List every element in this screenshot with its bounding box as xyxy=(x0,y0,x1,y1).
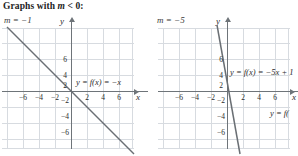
y-axis xyxy=(71,21,72,149)
figure-root: Graphs with m < 0: m = −1 xyxy=(0,0,298,156)
gridline-v xyxy=(103,28,104,149)
y-tick-label: 2 xyxy=(55,81,67,90)
gridline-h xyxy=(158,139,290,140)
equation-label-2-cutoff: y = f( xyxy=(270,108,289,118)
x-tick-label: −6 xyxy=(175,93,183,102)
gridline-h xyxy=(2,107,134,108)
gridline-v xyxy=(275,28,276,149)
x-tick-label: 2 xyxy=(85,93,89,102)
gridline-v xyxy=(39,28,40,149)
gridline-v xyxy=(288,28,289,149)
y-tick-label: −2 xyxy=(211,96,225,105)
y-axis-arrow-icon xyxy=(225,17,231,22)
x-tick-label: −4 xyxy=(191,93,199,102)
gridline-v xyxy=(23,28,24,149)
gridline-h xyxy=(2,43,134,44)
gridline-h xyxy=(158,28,290,29)
gridline-h xyxy=(2,28,134,29)
y-tick-label: 2 xyxy=(211,81,223,90)
y-tick-label: 4 xyxy=(211,71,223,80)
gridline-h xyxy=(2,139,134,140)
y-tick-label: −6 xyxy=(211,128,225,137)
gridline-v xyxy=(195,28,196,149)
slope-label-2: m = −5 xyxy=(157,15,185,25)
y-tick-label: −6 xyxy=(55,128,69,137)
gridline-v xyxy=(163,28,164,149)
gridline-v xyxy=(259,28,260,149)
y-tick-label: −4 xyxy=(55,112,69,121)
gridline-v xyxy=(243,28,244,149)
gridline-v xyxy=(7,28,8,149)
equation-label-2: y = f(x) = −5x + 1 xyxy=(230,67,294,77)
x-tick-label: 4 xyxy=(101,93,105,102)
slope-label-1: m = −1 xyxy=(4,15,32,25)
y-axis-label-1: y xyxy=(60,16,64,26)
x-tick-label: 2 xyxy=(241,93,245,102)
y-tick-label: 6 xyxy=(55,55,67,64)
gridline-h xyxy=(2,75,134,76)
y-tick-label: 6 xyxy=(211,55,223,64)
graph-panel-2: m = −5 xyxy=(150,0,298,156)
y-axis-label-2: y xyxy=(216,16,220,26)
gridline-h xyxy=(158,43,290,44)
y-tick-label: 4 xyxy=(55,71,67,80)
gridline-h xyxy=(2,59,134,60)
gridline-h xyxy=(2,148,134,149)
x-tick-label: −6 xyxy=(19,93,27,102)
x-tick-label: −4 xyxy=(35,93,43,102)
x-axis-label-2: x xyxy=(292,92,296,102)
x-tick-label: 6 xyxy=(273,93,277,102)
x-tick-label: 6 xyxy=(117,93,121,102)
graph-panel-1: m = −1 xyxy=(0,0,150,156)
gridline-v xyxy=(87,28,88,149)
plot-area-1: x y −6 −4 −2 2 4 6 6 4 2 −2 −4 −6 y = f(… xyxy=(2,28,134,149)
gridline-v xyxy=(119,28,120,149)
y-tick-label: −2 xyxy=(55,96,69,105)
x-axis-label-1: x xyxy=(136,92,140,102)
gridline-v xyxy=(179,28,180,149)
y-axis-arrow-icon xyxy=(69,17,75,22)
gridline-h xyxy=(158,59,290,60)
y-tick-label: −4 xyxy=(211,112,225,121)
x-tick-label: 4 xyxy=(257,93,261,102)
equation-label-1: y = f(x) = −x xyxy=(76,77,121,87)
gridline-v xyxy=(132,28,133,149)
gridline-h xyxy=(2,123,134,124)
gridline-h xyxy=(158,148,290,149)
y-axis xyxy=(227,21,228,149)
gridline-h xyxy=(158,123,290,124)
plot-area-2: x y −6 −4 −2 2 4 6 6 4 2 −2 −4 −6 y = f(… xyxy=(158,28,290,149)
